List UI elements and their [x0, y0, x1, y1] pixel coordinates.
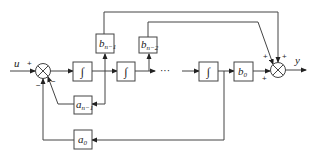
output-plus-sign-bn1: +: [282, 52, 287, 61]
input-label: u: [14, 57, 20, 69]
output-label: y: [294, 54, 300, 66]
feedforward-line-bn1: [104, 12, 278, 62]
output-summing-junction: [271, 63, 286, 78]
integral-symbol: ∫: [123, 65, 128, 79]
gain-block-b-n-2: bn−2: [139, 37, 159, 53]
input-plus-sign: +: [27, 59, 32, 68]
gain-block-a-n-1: an−1: [74, 96, 93, 114]
gain-block-b-n-1: bn−1: [96, 34, 116, 53]
input-minus-sign-an1: −: [51, 77, 56, 86]
integral-symbol: ∫: [206, 65, 211, 79]
output-plus-sign-b0: +: [262, 74, 267, 83]
integral-symbol: ∫: [80, 65, 85, 79]
block-diagram: u + − − ∫ bn−1 ∫ bn−2 ···: [0, 0, 313, 162]
feedforward-line-bn2: [148, 22, 273, 64]
gain-block-b-0: b0: [234, 62, 253, 81]
integrator-block-2: ∫: [117, 62, 135, 81]
ellipsis: ···: [160, 65, 170, 76]
gain-block-a-0: a0: [74, 130, 92, 149]
feedback-line-a0-to-sum: [43, 79, 74, 140]
output-plus-sign-bn2: +: [263, 52, 268, 61]
integrator-block-n: ∫: [199, 62, 218, 81]
input-minus-sign-a0: −: [36, 81, 41, 90]
integrator-block-1: ∫: [73, 62, 92, 81]
input-summing-junction: [36, 64, 51, 79]
